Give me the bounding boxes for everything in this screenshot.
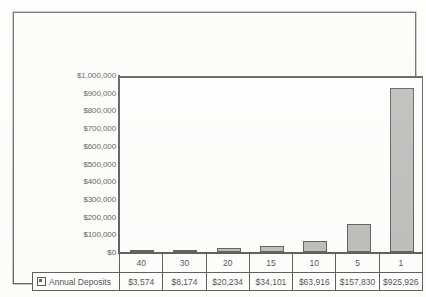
table-cell-value: $157,830 <box>335 272 378 291</box>
table-cell-category: 20 <box>206 253 249 272</box>
y-axis-tick-label: $600,000 <box>42 143 116 151</box>
y-axis-tick-label: $100,000 <box>42 231 116 239</box>
bar[interactable] <box>347 224 371 252</box>
bar-slot <box>207 78 250 252</box>
table-cell-category: 15 <box>249 253 292 272</box>
y-axis-tick-label: $300,000 <box>42 196 116 204</box>
data-table: 403020151051 Annual Deposits $3,574$8,17… <box>32 253 423 291</box>
y-axis-tick-label: $800,000 <box>42 107 116 115</box>
bar-slot <box>337 78 380 252</box>
table-cell-value: $3,574 <box>119 272 162 291</box>
y-axis-tick-label: $400,000 <box>42 178 116 186</box>
table-cell-value: $925,926 <box>379 272 423 291</box>
table-cell-category: 40 <box>119 253 162 272</box>
table-cell-category: 10 <box>292 253 335 272</box>
table-cell-value: $63,916 <box>292 272 335 291</box>
table-cell-value: $8,174 <box>162 272 205 291</box>
bar[interactable] <box>390 88 414 252</box>
bar[interactable] <box>217 248 241 252</box>
bar-slot <box>294 78 337 252</box>
table-cell-category: 1 <box>379 253 423 272</box>
y-axis-tick-label: $500,000 <box>42 161 116 169</box>
y-axis-tick-labels: $1,000,000$900,000$800,000$700,000$600,0… <box>42 69 116 259</box>
chart-frame: $1,000,000$900,000$800,000$700,000$600,0… <box>13 12 416 284</box>
bar-slot <box>163 78 206 252</box>
square-swatch-icon <box>37 277 46 286</box>
bar[interactable] <box>260 246 284 252</box>
y-axis-tick-label: $700,000 <box>42 125 116 133</box>
legend-series-label: Annual Deposits <box>49 277 111 287</box>
legend-series-cell: Annual Deposits <box>32 272 119 291</box>
table-cell-value: $20,234 <box>206 272 249 291</box>
y-axis-tick-label: $200,000 <box>42 214 116 222</box>
bar[interactable] <box>173 250 197 252</box>
plot-area <box>119 76 423 253</box>
table-row-values: Annual Deposits $3,574$8,174$20,234$34,1… <box>32 272 423 291</box>
bars-container <box>120 78 422 252</box>
bar-slot <box>120 78 163 252</box>
bar[interactable] <box>130 250 154 252</box>
bar[interactable] <box>303 241 327 252</box>
y-axis-tick-label: $900,000 <box>42 90 116 98</box>
table-cell-category: 5 <box>335 253 378 272</box>
bar-slot <box>381 78 424 252</box>
table-cell-value: $34,101 <box>249 272 292 291</box>
y-axis-tick-label: $1,000,000 <box>42 72 116 80</box>
bar-slot <box>250 78 293 252</box>
table-cell-category: 30 <box>162 253 205 272</box>
table-row-categories: 403020151051 <box>119 253 423 272</box>
